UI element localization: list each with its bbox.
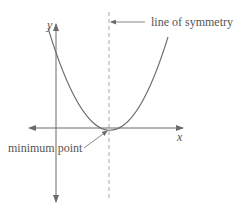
minimum-label: minimum point	[8, 141, 83, 155]
parabola-curve	[48, 28, 168, 130]
parabola-diagram: y x line of symmetry minimum point	[0, 0, 245, 209]
minimum-pointer-arrow	[84, 131, 107, 148]
symmetry-label: line of symmetry	[151, 15, 233, 29]
y-axis-label: y	[46, 18, 53, 32]
x-axis-label: x	[176, 130, 183, 144]
